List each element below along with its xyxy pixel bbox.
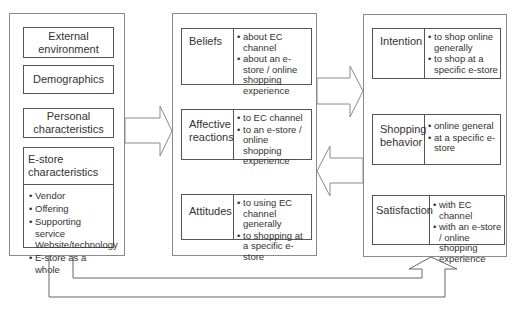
affective-reactions-box: Affective reactions to EC channel to an …	[181, 109, 312, 160]
affective-reactions-label: Affective reactions	[182, 110, 234, 159]
attitudes-label: Attitudes	[182, 195, 234, 239]
personal-characteristics-box: Personal characteristics	[23, 108, 114, 138]
attitudes-item: to using EC channel generally	[237, 198, 309, 230]
satisfaction-item: with EC channel	[433, 200, 502, 221]
shopping-behavior-label: Shopping behavior	[373, 115, 425, 164]
estore-characteristics-box: E-store characteristics Vendor Offering …	[23, 147, 114, 248]
intention-box: Intention to shop online generally to sh…	[372, 28, 501, 79]
intention-item: to shop at a specific e-store	[428, 54, 498, 75]
estore-item: E-store as a whole	[29, 252, 111, 275]
attitudes-box: Attitudes to using EC channel generally …	[181, 194, 312, 240]
demographics-label: Demographics	[33, 73, 104, 86]
arrow-left-right-to-middle	[317, 146, 363, 196]
beliefs-label: Beliefs	[182, 29, 234, 84]
satisfaction-box: Satisfaction with EC channel with an e-s…	[372, 195, 505, 245]
beliefs-item: about EC channel	[237, 32, 309, 53]
estore-item: Vendor	[29, 190, 111, 202]
satisfaction-label: Satisfaction	[373, 196, 430, 244]
estore-characteristics-label: E-store characteristics	[24, 148, 113, 185]
estore-characteristics-list: Vendor Offering Supporting service Websi…	[24, 185, 113, 275]
satisfaction-item: with an e-store / online shopping experi…	[433, 222, 502, 264]
middle-column-attitudinal: Beliefs about EC channel about an e-stor…	[172, 13, 317, 256]
left-column-antecedents: External environment Demographics Person…	[9, 13, 125, 256]
affective-item: to EC channel	[237, 113, 309, 124]
personal-characteristics-label: Personal characteristics	[24, 110, 113, 136]
attitudes-item: to shopping at a specific e-store	[237, 231, 309, 263]
intention-label: Intention	[373, 29, 425, 78]
shopping-behavior-item: online general	[428, 121, 498, 132]
estore-item: Offering	[29, 203, 111, 215]
beliefs-box: Beliefs about EC channel about an e-stor…	[181, 28, 312, 85]
external-environment-box: External environment	[23, 27, 114, 58]
estore-item: Supporting service Website/technology	[29, 216, 111, 251]
shopping-behavior-item: at a specific e-store	[428, 133, 498, 154]
beliefs-item: about an e-store / online shopping exper…	[237, 54, 309, 96]
intention-item: to shop online generally	[428, 32, 498, 53]
arrow-right-left-to-middle	[125, 106, 172, 156]
demographics-box: Demographics	[23, 65, 114, 94]
arrow-right-middle-to-right	[317, 66, 363, 117]
shopping-behavior-box: Shopping behavior online general at a sp…	[372, 114, 501, 165]
external-environment-label: External environment	[24, 30, 113, 56]
affective-item: to an e-store / online shopping experien…	[237, 125, 309, 167]
right-column-outcomes: Intention to shop online generally to sh…	[363, 14, 507, 257]
